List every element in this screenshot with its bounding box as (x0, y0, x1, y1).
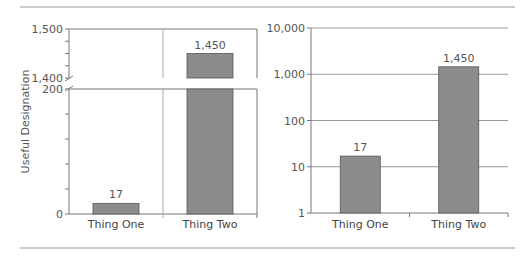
bar (439, 67, 479, 213)
y-tick-label: 10 (291, 161, 305, 174)
y-tick-label: 10,000 (267, 22, 306, 35)
y-axis-title: Useful Designation (19, 70, 32, 174)
y-tick-label: 1,000 (274, 68, 306, 81)
x-category-label: Thing One (87, 218, 145, 231)
data-label: 17 (353, 141, 367, 154)
y-tick-label: 1 (298, 207, 305, 220)
bar-lower-segment (187, 89, 233, 214)
lower-y-tick-label: 200 (42, 83, 63, 96)
bar-upper-segment (187, 54, 233, 79)
x-category-label: Thing Two (182, 218, 238, 231)
upper-y-tick-label: 1,500 (32, 23, 64, 36)
chart-figure: 1,4001,5000200Useful Designation17Thing … (0, 0, 530, 260)
data-label: 1,450 (194, 39, 226, 52)
x-category-label: Thing One (331, 218, 389, 231)
lower-y-tick-label: 0 (56, 208, 63, 221)
bar (93, 203, 139, 214)
data-label: 17 (109, 188, 123, 201)
data-label: 1,450 (443, 52, 475, 65)
x-category-label: Thing Two (430, 218, 486, 231)
bar (340, 156, 380, 213)
y-tick-label: 100 (284, 115, 305, 128)
